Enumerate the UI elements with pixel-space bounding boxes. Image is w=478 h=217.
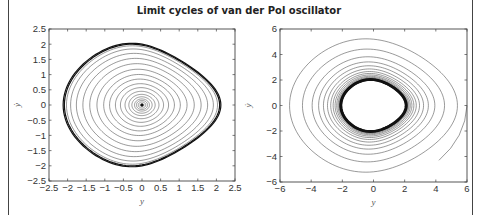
left-plot-xtick-label: −1.5 [77, 182, 96, 193]
left-plot-ytick-label: −1 [35, 130, 46, 141]
right-plot-ytick-label: 4 [272, 49, 277, 60]
right-trajectory-loop [337, 76, 411, 134]
left-plot-ytick-label: −0.5 [27, 115, 46, 126]
right-plot-xtick-label: 0 [371, 183, 376, 194]
left-plot-xtick-label: 0 [139, 182, 144, 193]
right-plot-ytick-label: 6 [272, 23, 277, 34]
right-plot-xtick-label: 2 [402, 183, 407, 194]
right-plot-xlabel: y [371, 197, 376, 207]
right-trajectory-loop [290, 39, 458, 172]
left-plot-ytick-label: 1.5 [33, 54, 46, 65]
right-plot-ylabel: ẏ [243, 103, 253, 109]
right-plot-xtick-label: 4 [433, 183, 438, 194]
left-plot-ytick-label: −1.5 [27, 145, 46, 156]
plots-canvas: −2.5−2−1.5−1−0.500.511.522.52.521.510.50… [0, 0, 478, 217]
right-trajectory-loop [335, 75, 412, 136]
left-plot-xlabel: y [139, 196, 144, 206]
right-trajectory-loop [333, 73, 414, 137]
left-plot-ytick-label: 0 [41, 99, 46, 110]
left-plot-xtick-label: 0.5 [154, 182, 167, 193]
left-plot-ytick-label: −2 [35, 160, 46, 171]
left-plot-ytick-label: 2.5 [33, 23, 46, 34]
left-plot-xtick-label: 2 [214, 182, 219, 193]
right-plot-ytick-label: −2 [266, 125, 277, 136]
right-phase-plot: −6−4−202466420−2−4−6yẏ [243, 23, 470, 207]
right-plot-ytick-label: 2 [272, 74, 277, 85]
right-plot-xtick-label: 6 [464, 183, 469, 194]
left-plot-ylabel: ẏ [12, 102, 22, 108]
left-plot-ytick-label: −2.5 [27, 175, 46, 186]
left-plot-xtick-label: −1 [99, 182, 110, 193]
left-plot-xtick-label: 1 [177, 182, 182, 193]
left-origin-dot [140, 103, 143, 106]
left-phase-plot: −2.5−2−1.5−1−0.500.511.522.52.521.510.50… [12, 23, 242, 206]
right-plot-ytick-label: −6 [266, 176, 277, 187]
right-plot-ytick-label: −4 [266, 151, 277, 162]
right-plot-xtick-label: −4 [306, 183, 317, 194]
right-plot-xtick-label: −2 [337, 183, 348, 194]
right-trajectory-loop [338, 77, 409, 133]
left-plot-ytick-label: 0.5 [33, 84, 46, 95]
right-plot-frame [280, 29, 467, 182]
left-plot-xtick-label: −0.5 [114, 182, 133, 193]
left-plot-xtick-label: −2 [62, 182, 73, 193]
left-plot-ytick-label: 1 [41, 69, 46, 80]
left-plot-ytick-label: 2 [41, 39, 46, 50]
left-plot-xtick-label: 1.5 [191, 182, 204, 193]
right-plot-ytick-label: 0 [272, 100, 277, 111]
left-plot-xtick-label: 2.5 [228, 182, 241, 193]
